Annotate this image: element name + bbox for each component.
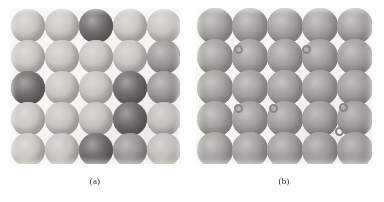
interstitial-atom xyxy=(234,104,243,113)
lattice-sphere xyxy=(267,132,303,164)
panel-caption: (a) xyxy=(65,176,125,186)
lattice-sphere xyxy=(11,9,45,43)
lattice-sphere xyxy=(45,9,79,43)
lattice-sphere xyxy=(113,133,147,164)
interstitial-atom xyxy=(302,45,311,54)
interstitial-atom xyxy=(269,104,278,113)
lattice-panel xyxy=(10,8,180,164)
interstitial-atom xyxy=(234,45,243,54)
lattice-sphere xyxy=(79,40,113,74)
lattice-sphere xyxy=(232,132,268,164)
lattice-sphere xyxy=(79,133,113,164)
lattice-sphere xyxy=(79,71,113,105)
lattice-sphere xyxy=(45,40,79,74)
lattice-sphere xyxy=(197,132,233,164)
lattice-sphere xyxy=(113,9,147,43)
lattice-sphere xyxy=(147,133,180,164)
lattice-panel xyxy=(196,8,372,164)
lattice-sphere xyxy=(147,9,180,43)
lattice-sphere xyxy=(79,102,113,136)
lattice-sphere xyxy=(147,71,180,105)
lattice-sphere xyxy=(11,71,45,105)
lattice-sphere xyxy=(302,132,338,164)
lattice-sphere xyxy=(113,102,147,136)
lattice-sphere xyxy=(45,102,79,136)
panel-b-wrapper xyxy=(196,8,372,164)
lattice-sphere xyxy=(147,102,180,136)
lattice-sphere xyxy=(147,40,180,74)
lattice-sphere xyxy=(79,9,113,43)
lattice-sphere xyxy=(337,132,372,164)
lattice-sphere xyxy=(45,71,79,105)
lattice-sphere xyxy=(11,40,45,74)
interstitial-atom xyxy=(339,103,348,112)
lattice-sphere xyxy=(11,102,45,136)
interstitial-atom xyxy=(335,127,344,136)
lattice-sphere xyxy=(11,133,45,164)
panel-a-wrapper xyxy=(10,8,180,164)
panel-caption: (b) xyxy=(254,176,314,186)
lattice-sphere xyxy=(45,133,79,164)
figure-root: (a)(b) xyxy=(0,0,384,202)
lattice-sphere xyxy=(113,71,147,105)
lattice-sphere xyxy=(113,40,147,74)
